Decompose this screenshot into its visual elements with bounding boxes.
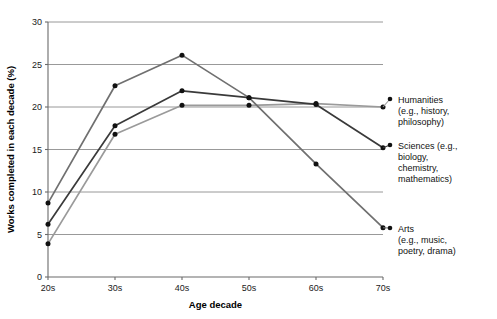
data-point	[46, 241, 51, 246]
series-line-humanities	[48, 104, 383, 244]
x-tick-label: 30s	[108, 283, 123, 293]
y-tick-label: 25	[32, 60, 42, 70]
legend-label-sciences: mathematics)	[398, 174, 452, 184]
data-point	[247, 95, 252, 100]
legend-label-sciences: biology,	[398, 152, 428, 162]
x-axis-tick-labels: 20s30s40s50s60s70s	[41, 283, 391, 293]
axes	[45, 22, 383, 280]
legend-label-sciences: chemistry,	[398, 163, 438, 173]
y-tick-label: 5	[37, 230, 42, 240]
data-point	[247, 103, 252, 108]
legend-label-arts: Arts	[398, 224, 415, 234]
data-point	[113, 123, 118, 128]
legend: Humanities(e.g., history,philosophy)Scie…	[398, 95, 458, 256]
legend-label-humanities: (e.g., history,	[398, 106, 449, 116]
data-point	[314, 161, 319, 166]
legend-label-humanities: Humanities	[398, 95, 444, 105]
data-point	[314, 102, 319, 107]
x-tick-label: 50s	[242, 283, 257, 293]
data-point	[113, 132, 118, 137]
x-tick-label: 60s	[309, 283, 324, 293]
legend-label-arts: (e.g., music,	[398, 235, 447, 245]
series-line-arts	[48, 55, 383, 228]
x-tick-label: 70s	[376, 283, 391, 293]
gridlines	[48, 22, 383, 235]
legend-endpoint-marker	[388, 226, 393, 231]
y-tick-label: 30	[32, 17, 42, 27]
y-tick-label: 15	[32, 145, 42, 155]
y-tick-label: 10	[32, 187, 42, 197]
data-point	[180, 103, 185, 108]
data-point	[46, 201, 51, 206]
x-tick-label: 40s	[175, 283, 190, 293]
y-tick-label: 0	[37, 272, 42, 282]
legend-leader-lines	[383, 97, 392, 231]
data-point	[180, 53, 185, 58]
legend-label-arts: poetry, drama)	[398, 246, 456, 256]
legend-endpoint-marker	[388, 97, 393, 102]
legend-label-sciences: Sciences (e.g.,	[398, 141, 458, 151]
y-tick-label: 20	[32, 102, 42, 112]
legend-label-humanities: philosophy)	[398, 117, 444, 127]
y-axis-title: Works completed in each decade (%)	[5, 66, 16, 233]
chart-container: 051015202530 20s30s40s50s60s70s Humaniti…	[0, 0, 497, 319]
x-tick-label: 20s	[41, 283, 56, 293]
data-point	[180, 88, 185, 93]
data-point	[113, 83, 118, 88]
y-axis-tick-labels: 051015202530	[32, 17, 42, 282]
x-axis-title: Age decade	[189, 299, 242, 310]
data-point	[46, 222, 51, 227]
line-chart: 051015202530 20s30s40s50s60s70s Humaniti…	[0, 0, 497, 319]
legend-endpoint-marker	[388, 143, 393, 148]
series-line-sciences	[48, 91, 383, 224]
